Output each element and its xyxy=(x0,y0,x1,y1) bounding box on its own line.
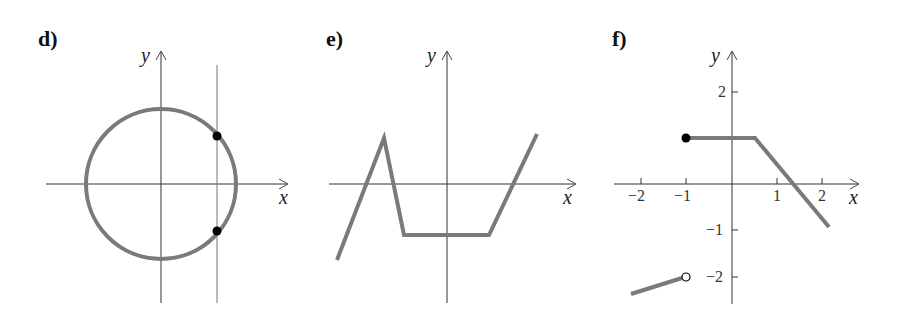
panel-f xyxy=(614,51,859,304)
graphs-canvas xyxy=(0,0,911,322)
intersection-point xyxy=(213,227,222,236)
right-piece-curve xyxy=(686,138,829,227)
intersection-point xyxy=(213,132,222,141)
panel-e xyxy=(329,51,576,303)
left-piece-curve xyxy=(631,278,682,294)
open-endpoint xyxy=(682,273,690,281)
piecewise-curve xyxy=(337,134,537,260)
closed-endpoint xyxy=(682,134,691,143)
panel-d xyxy=(46,51,288,303)
